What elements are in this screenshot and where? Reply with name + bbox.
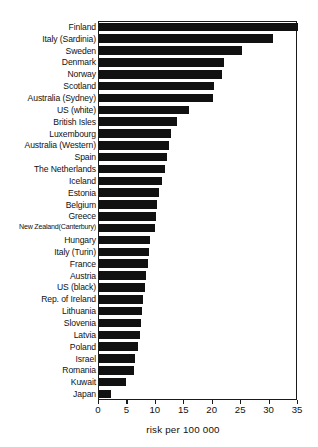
bar xyxy=(99,366,134,375)
bar xyxy=(99,248,149,257)
bar-row: Slovenia xyxy=(0,317,318,329)
bar xyxy=(99,331,140,340)
bar xyxy=(99,70,222,79)
bar-category-label: US (white) xyxy=(57,106,96,115)
x-tick-label: 25 xyxy=(235,405,246,415)
bar-category-label: Australia (Western) xyxy=(25,141,97,150)
bar xyxy=(99,117,177,126)
bar-row: Italy (Turin) xyxy=(0,246,318,258)
bar-row: Rep. of Ireland xyxy=(0,293,318,305)
bar-category-label: Italy (Sardinia) xyxy=(42,34,96,43)
bar xyxy=(99,94,213,103)
bar xyxy=(99,177,162,186)
bar-category-label: Greece xyxy=(68,212,96,221)
bar xyxy=(99,342,138,351)
bar xyxy=(99,212,156,221)
bar-category-label: Austria xyxy=(70,271,96,280)
bar-row: US (black) xyxy=(0,282,318,294)
bar xyxy=(99,378,126,387)
bar-category-label: Scotland xyxy=(63,82,96,91)
bar-category-label: Finland xyxy=(69,23,97,32)
bar-row: Poland xyxy=(0,341,318,353)
bar-category-label: US (black) xyxy=(57,283,96,292)
bar-row: Estonia xyxy=(0,187,318,199)
x-tick-label: 20 xyxy=(206,405,217,415)
bar-category-label: Italy (Turin) xyxy=(54,248,96,257)
bar xyxy=(99,390,111,399)
bar-row: Scotland xyxy=(0,80,318,92)
bar-row: Luxembourg xyxy=(0,128,318,140)
bar-row: Sweden xyxy=(0,45,318,57)
bar-category-label: New Zealand(Canterbury) xyxy=(19,225,96,232)
bar-category-label: Iceland xyxy=(69,177,96,186)
bar-row: Kuwait xyxy=(0,376,318,388)
bar-category-label: Poland xyxy=(70,342,96,351)
bar-row: Iceland xyxy=(0,175,318,187)
bar-category-label: Australia (Sydney) xyxy=(28,94,96,103)
bar-row: The Netherlands xyxy=(0,163,318,175)
bar-row: New Zealand(Canterbury) xyxy=(0,222,318,234)
x-tick-label: 0 xyxy=(95,405,100,415)
bar-category-label: Kuwait xyxy=(71,378,96,387)
bar-category-label: Estonia xyxy=(68,188,96,197)
bar xyxy=(99,319,141,328)
x-tick-label: 15 xyxy=(178,405,189,415)
bar-category-label: Spain xyxy=(75,153,96,162)
bar-row: US (white) xyxy=(0,104,318,116)
bar-category-label: Belgium xyxy=(66,200,96,209)
bar xyxy=(99,259,148,268)
bar-chart: FinlandItaly (Sardinia)SwedenDenmarkNorw… xyxy=(0,0,318,447)
bar-category-label: Japan xyxy=(73,390,96,399)
bar-row: Denmark xyxy=(0,57,318,69)
bar-category-label: Lithuania xyxy=(62,307,96,316)
bar xyxy=(99,46,242,55)
x-tick-label: 35 xyxy=(292,405,303,415)
bar xyxy=(99,307,142,316)
bar-category-label: Sweden xyxy=(66,46,96,55)
bar-row: Latvia xyxy=(0,329,318,341)
x-tick-label: 5 xyxy=(124,405,129,415)
bar xyxy=(99,200,157,209)
bar-category-label: Norway xyxy=(67,70,96,79)
bar-category-label: Latvia xyxy=(74,331,96,340)
bar xyxy=(99,271,146,280)
bar-row: Greece xyxy=(0,211,318,223)
bar-row: Romania xyxy=(0,364,318,376)
bar xyxy=(99,188,159,197)
bar-row: Italy (Sardinia) xyxy=(0,33,318,45)
bar xyxy=(99,129,171,138)
bar-row: Belgium xyxy=(0,199,318,211)
bar xyxy=(99,141,169,150)
x-tick-label: 10 xyxy=(150,405,161,415)
bar-row: Israel xyxy=(0,353,318,365)
bar-category-label: Slovenia xyxy=(64,319,96,328)
bar-category-label: British Isles xyxy=(53,117,96,126)
bar xyxy=(99,153,167,162)
bar-category-label: Romania xyxy=(62,366,96,375)
bar xyxy=(99,82,214,91)
bar-row: Australia (Western) xyxy=(0,139,318,151)
bar-category-label: Rep. of Ireland xyxy=(41,295,96,304)
bar-row: Norway xyxy=(0,68,318,80)
bar-category-label: France xyxy=(70,260,96,269)
bar-row: Finland xyxy=(0,21,318,33)
bar-row: Lithuania xyxy=(0,305,318,317)
bar-row: France xyxy=(0,258,318,270)
bar-category-label: The Netherlands xyxy=(34,165,96,174)
bar xyxy=(99,283,145,292)
bar xyxy=(99,58,224,67)
bar xyxy=(99,224,155,233)
bar-row: Spain xyxy=(0,151,318,163)
bar xyxy=(99,354,135,363)
bar-category-label: Denmark xyxy=(62,58,96,67)
bar xyxy=(99,165,165,174)
bar-category-label: Israel xyxy=(76,354,96,363)
bar xyxy=(99,295,143,304)
bar xyxy=(99,236,150,245)
x-tick-label: 30 xyxy=(263,405,274,415)
bar-category-label: Hungary xyxy=(64,236,96,245)
bar-category-label: Luxembourg xyxy=(49,129,96,138)
bar-row: Australia (Sydney) xyxy=(0,92,318,104)
bar-row: British Isles xyxy=(0,116,318,128)
x-axis: 05101520253035 xyxy=(98,400,297,401)
